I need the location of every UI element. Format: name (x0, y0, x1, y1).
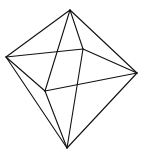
octahedron-wireframe (0, 0, 146, 157)
edge-back-right (83, 49, 137, 73)
edge-top-left (6, 10, 70, 57)
edge-bottom-left (6, 57, 67, 148)
edge-left-back (6, 49, 83, 57)
octahedron-diagram (0, 0, 146, 157)
